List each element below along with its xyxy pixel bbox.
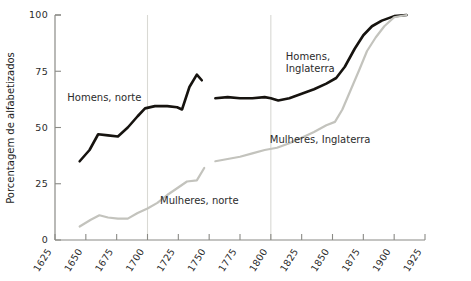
x-tick-label-1775: 1775 <box>216 246 239 273</box>
x-tick-label-1900: 1900 <box>370 246 393 273</box>
y-tick-label-100: 100 <box>29 9 48 20</box>
x-tick-label-1825: 1825 <box>278 246 301 273</box>
x-tick-label-1875: 1875 <box>339 246 362 273</box>
y-tick-label-25: 25 <box>35 178 48 189</box>
y-tick-labels: 0255075100 <box>29 9 48 245</box>
series-label-mulheres-inglaterra: Mulheres, Inglaterra <box>270 134 371 145</box>
series-label-homens-inglaterra: Homens,Inglaterra <box>286 51 335 74</box>
series-line-homens-norte <box>80 75 202 162</box>
x-tick-label-1925: 1925 <box>401 246 424 273</box>
x-tick-label-1675: 1675 <box>93 246 116 273</box>
series-lines <box>80 15 407 227</box>
series-label-homens-norte: Homens, norte <box>67 92 141 103</box>
chart-svg: 0255075100 16251650167517001725175017751… <box>0 0 471 281</box>
x-tick-label-1625: 1625 <box>31 246 54 273</box>
x-tick-label-1750: 1750 <box>185 246 208 273</box>
y-axis-title: Porcentagem de alfabetizados <box>5 52 16 204</box>
literacy-line-chart: 0255075100 16251650167517001725175017751… <box>0 0 471 281</box>
y-tick-label-50: 50 <box>35 122 48 133</box>
x-tick-label-1650: 1650 <box>62 246 85 273</box>
y-ticks <box>55 15 61 240</box>
x-tick-label-1725: 1725 <box>154 246 177 273</box>
x-tick-label-1800: 1800 <box>247 246 270 273</box>
y-tick-label-0: 0 <box>42 234 48 245</box>
x-tick-label-1850: 1850 <box>308 246 331 273</box>
x-tick-labels: 1625165016751700172517501775180018251850… <box>31 246 424 273</box>
x-tick-label-1700: 1700 <box>123 246 146 273</box>
series-annotations: Homens, norteMulheres, norteHomens,Ingla… <box>67 51 370 206</box>
series-label-mulheres-norte: Mulheres, norte <box>160 195 239 206</box>
y-tick-label-75: 75 <box>35 66 48 77</box>
x-ticks <box>55 234 425 240</box>
gridlines <box>148 15 271 240</box>
